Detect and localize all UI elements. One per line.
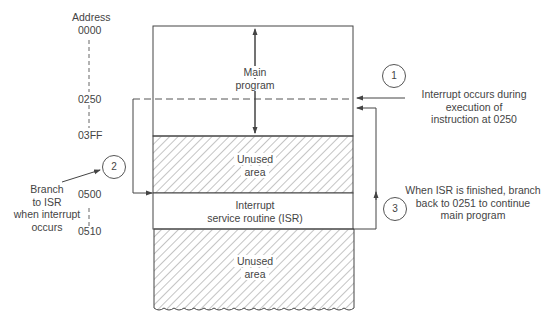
- address-03ff: 03FF: [78, 129, 103, 141]
- step-2-line3: when interrupt: [14, 208, 81, 220]
- step-1-badge: 1: [382, 64, 406, 88]
- unused-2-line2: area: [241, 268, 268, 280]
- step-2-line4: occurs: [32, 221, 63, 233]
- unused-2-line1: Unused: [234, 255, 276, 267]
- isr-line1: Interrupt: [235, 199, 274, 211]
- main-program-line1: Main: [241, 66, 270, 78]
- branch-to-isr-path: [133, 99, 152, 193]
- isr-label: Interrupt service routine (ISR): [188, 199, 322, 224]
- address-0000: 0000: [78, 24, 101, 36]
- unused-area-1-label: Unused area: [228, 153, 282, 178]
- main-program-line2: program: [232, 79, 277, 91]
- step2-pointer: [62, 170, 100, 182]
- step-3-line1: When ISR is finished, branch: [405, 184, 540, 196]
- step-3-line3: main program: [441, 209, 506, 221]
- step-2-description: Branch to ISR when interrupt occurs: [10, 183, 84, 233]
- step-2-line2: to ISR: [32, 196, 61, 208]
- step-1-line2: execution of: [446, 101, 503, 113]
- step-3-line2: back to 0251 to continue: [416, 197, 530, 209]
- unused-area-2-label: Unused area: [228, 255, 282, 280]
- address-0250: 0250: [78, 93, 101, 105]
- step-1-line1: Interrupt occurs during: [421, 88, 526, 100]
- main-program-label: Main program: [228, 66, 282, 91]
- isr-line2: service routine (ISR): [207, 212, 303, 224]
- address-title: Address: [72, 11, 111, 23]
- step-1-line3: instruction at 0250: [431, 113, 517, 125]
- step-3-description: When ISR is finished, branch back to 025…: [403, 184, 543, 222]
- step-1-description: Interrupt occurs during execution of ins…: [407, 88, 541, 126]
- unused-1-line2: area: [241, 166, 268, 178]
- return-to-main-path: [353, 108, 376, 229]
- unused-1-line1: Unused: [234, 153, 276, 165]
- step-2-badge: 2: [102, 155, 126, 179]
- step-2-line1: Branch: [30, 183, 63, 195]
